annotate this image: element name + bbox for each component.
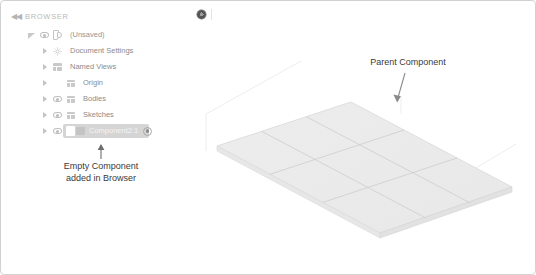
visibility-eye-icon[interactable] [38, 27, 51, 43]
activate-component-radio-icon[interactable] [143, 127, 152, 136]
expander-triangle-icon[interactable] [38, 59, 51, 75]
header-divider [211, 9, 212, 20]
tree-item-label: (Unsaved) [70, 27, 105, 43]
tree-row-origin[interactable]: Origin [1, 75, 221, 91]
tree-item-label: Component2:1 [89, 123, 138, 139]
tree-item-label: Sketches [83, 107, 114, 123]
annotation-line-2: added in Browser [31, 173, 171, 185]
tree-row-sketches[interactable]: Sketches [1, 107, 221, 123]
annotation-line-1: Empty Component [31, 161, 171, 173]
expander-triangle-icon[interactable] [38, 43, 51, 59]
browser-header-tools [197, 9, 212, 20]
tree-row-component2[interactable]: Component2:1 [1, 123, 221, 139]
component-document-icon [51, 27, 64, 43]
collapse-left-icon[interactable]: ◀◀ [11, 12, 20, 21]
tree-row-named-views[interactable]: Named Views [1, 59, 221, 75]
annotation-arrow-right [393, 73, 405, 103]
expander-triangle-icon[interactable] [38, 107, 51, 123]
expander-triangle-icon[interactable] [38, 75, 51, 91]
tree-item-label: Document Settings [70, 43, 133, 59]
app-window: ◀◀ BROWSER (Unsaved) [0, 0, 536, 275]
gear-icon[interactable] [197, 10, 206, 19]
tree-item-label: Named Views [70, 59, 116, 75]
annotation-empty-component: Empty Component added in Browser [31, 161, 171, 184]
component-icon [66, 126, 75, 136]
visibility-eye-placeholder [51, 75, 64, 91]
browser-tree: (Unsaved) Document Set [1, 27, 221, 139]
folder-icon [51, 59, 64, 75]
tree-row-unsaved[interactable]: (Unsaved) [1, 27, 221, 43]
browser-panel-header: ◀◀ BROWSER [11, 9, 211, 23]
visibility-eye-icon[interactable] [51, 91, 64, 107]
annotation-line-1: Parent Component [353, 57, 463, 69]
tree-item-label: Origin [83, 75, 103, 91]
tree-row-bodies[interactable]: Bodies [1, 91, 221, 107]
folder-icon [64, 75, 77, 91]
browser-panel: ◀◀ BROWSER (Unsaved) [1, 1, 221, 151]
annotation-parent-component: Parent Component [353, 57, 463, 69]
construction-lines [206, 61, 516, 171]
expander-triangle-icon[interactable] [38, 123, 51, 139]
folder-icon [64, 107, 77, 123]
browser-panel-title: BROWSER [25, 12, 69, 21]
tree-item-label: Bodies [83, 91, 106, 107]
folder-icon [64, 91, 77, 107]
gear-glyph [53, 47, 62, 56]
visibility-eye-icon[interactable] [51, 107, 64, 123]
expander-triangle-icon[interactable] [38, 91, 51, 107]
expander-triangle-icon[interactable] [25, 27, 38, 43]
gear-icon [51, 43, 64, 59]
component-glyph-icon [76, 127, 85, 135]
tree-row-document-settings[interactable]: Document Settings [1, 43, 221, 59]
grid-lines-u [262, 117, 471, 218]
